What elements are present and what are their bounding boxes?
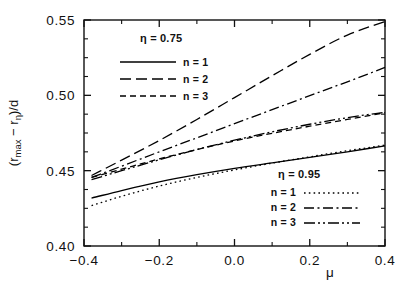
y-tick-label: 0.45	[46, 164, 75, 179]
legend-label-eta095-n3: n = 3	[271, 216, 296, 228]
x-tick-label: 0.2	[299, 253, 320, 268]
legend-label-eta075-n3: n = 3	[183, 90, 208, 102]
chart-figure: −0.4−0.20.00.20.4 0.400.450.500.55 μ (rm…	[0, 0, 410, 292]
y-axis-title-close: )/d	[6, 100, 21, 115]
y-tick-label: 0.50	[46, 88, 75, 103]
legend-eta-075-header: η = 0.75	[140, 32, 182, 44]
y-axis-title-minus: − r	[6, 120, 21, 140]
x-tick-label: 0.0	[224, 253, 245, 268]
x-axis-title: μ	[326, 265, 334, 280]
y-tick-label: 0.40	[46, 239, 75, 254]
line-chart: −0.4−0.20.00.20.4 0.400.450.500.55 μ (rm…	[0, 0, 410, 292]
legend-label-eta075-n1: n = 1	[183, 56, 208, 68]
x-tick-label: 0.4	[375, 253, 396, 268]
legend-label-eta095-n2: n = 2	[271, 201, 296, 213]
legend-label-eta095-n1: n = 1	[271, 186, 296, 198]
x-tick-label: −0.4	[69, 253, 98, 268]
y-tick-label: 0.55	[46, 13, 75, 28]
y-axis-title-sub-max: max	[12, 139, 23, 157]
legend-eta-095-header: η = 0.95	[278, 168, 320, 180]
legend-label-eta075-n2: n = 2	[183, 73, 208, 85]
x-tick-label: −0.2	[145, 253, 174, 268]
